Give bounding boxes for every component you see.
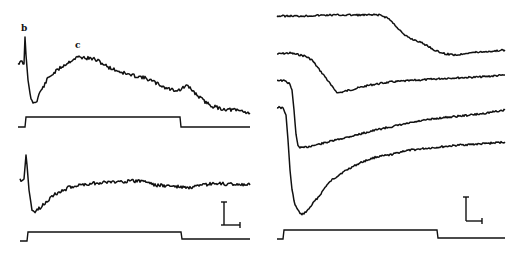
left-scale-bar — [221, 202, 240, 228]
left-bottom-panel — [20, 155, 250, 241]
left-bottom-stimulus-step — [20, 232, 250, 241]
right-trace-4 — [277, 107, 505, 215]
right-stimulus-step — [277, 230, 505, 239]
right-trace-2 — [277, 52, 505, 93]
right-scale-bar — [463, 197, 482, 224]
right-panel — [277, 14, 505, 239]
left-top-stimulus-step — [18, 117, 250, 127]
figure-canvas: b c — [0, 0, 522, 254]
left-top-response-trace — [18, 37, 250, 114]
label-c: c — [75, 40, 81, 50]
left-top-panel: b c — [18, 23, 250, 127]
right-trace-3 — [277, 80, 505, 148]
right-trace-1 — [277, 14, 505, 55]
left-bottom-response-trace — [20, 155, 250, 213]
label-b: b — [21, 23, 27, 33]
